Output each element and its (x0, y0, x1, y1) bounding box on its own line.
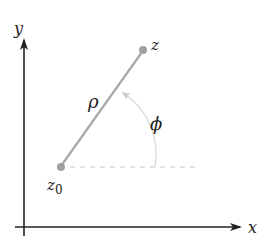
point-z-label: z (150, 36, 159, 54)
rho-label: ρ (87, 91, 99, 112)
point-z (139, 46, 147, 54)
phi-label: ϕ (150, 113, 162, 134)
y-axis-label: y (13, 19, 24, 38)
point-z0-label-main: z (46, 176, 55, 194)
rho-segment (61, 52, 142, 166)
polar-coordinates-diagram: y x z z0 ρ ϕ (0, 0, 271, 247)
x-axis-label: x (248, 218, 257, 237)
point-z0 (57, 163, 65, 171)
point-z0-label-subscript: 0 (55, 183, 63, 197)
point-z0-label: z0 (46, 176, 63, 197)
